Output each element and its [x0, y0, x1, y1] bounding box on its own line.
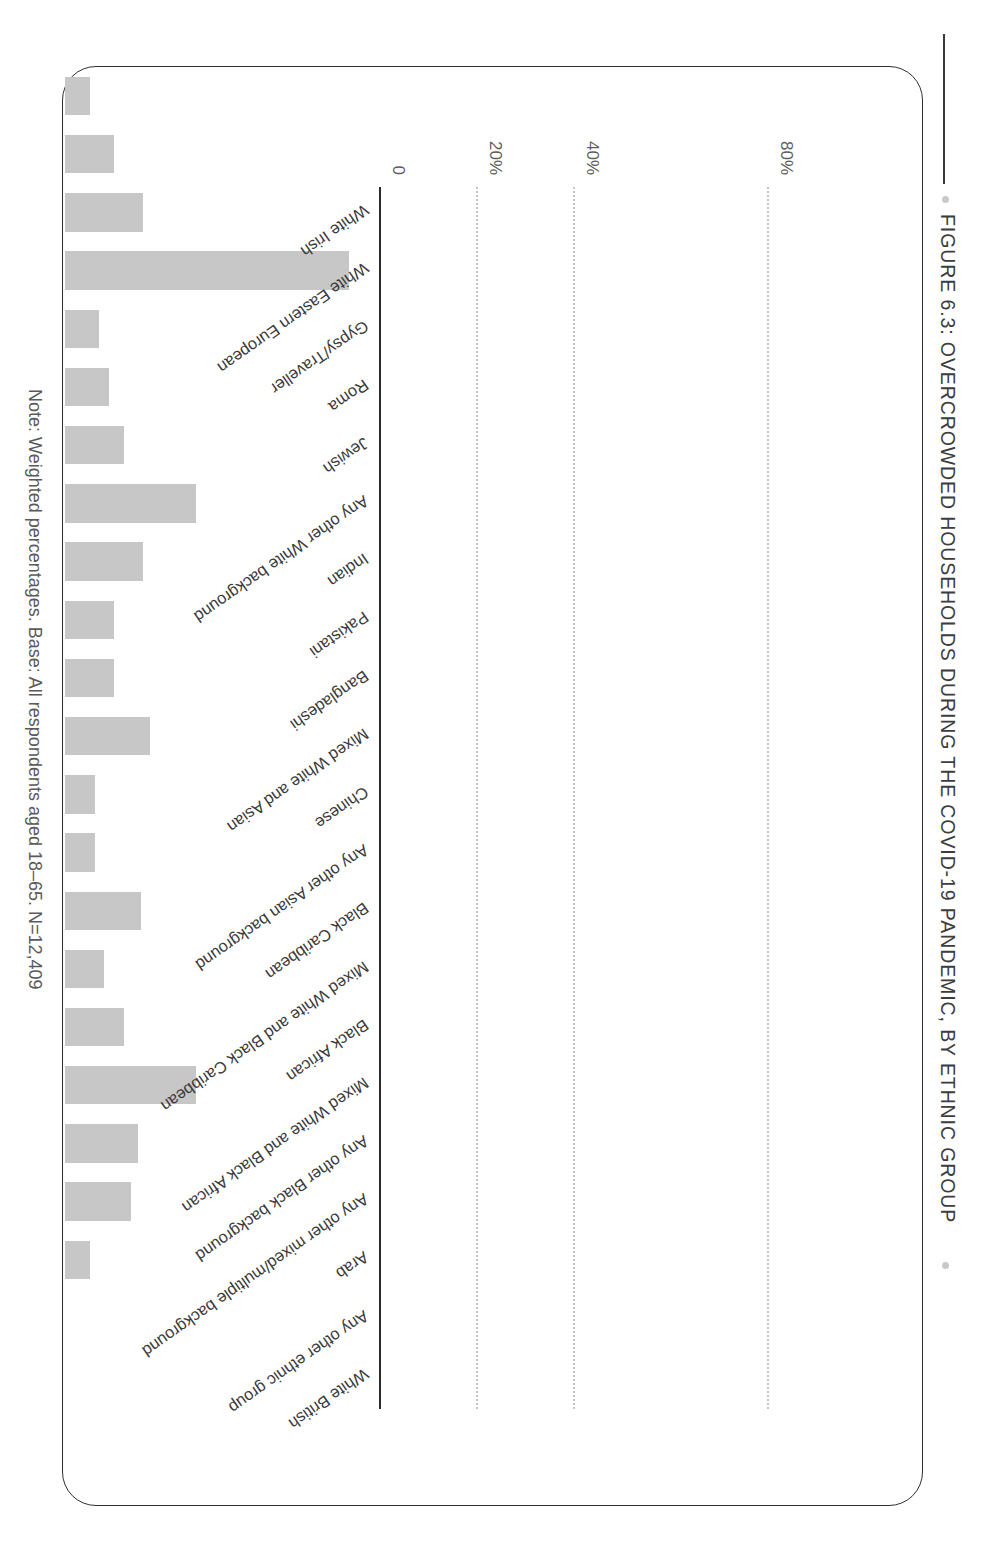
category-label-text: Jewish	[320, 433, 372, 477]
category-label: Any other ethnic group	[46, 1293, 376, 1351]
category-label-text: Indian	[324, 550, 372, 591]
category-label-text: Roma	[325, 375, 372, 416]
bar-slot[interactable]	[65, 67, 500, 125]
category-label: Any other Asian background	[46, 827, 376, 885]
figure-title: FIGURE 6.3: OVERCROWDED HOUSEHOLDS DURIN…	[936, 214, 959, 1223]
category-label: Mixed White and Black African	[46, 1060, 376, 1118]
category-label: Gypsy/Traveller	[46, 303, 376, 361]
figure-stage: FIGURE 6.3: OVERCROWDED HOUSEHOLDS DURIN…	[0, 0, 991, 1561]
category-label: White British	[46, 1351, 376, 1409]
chart-panel: 020%40%80% White IrishWhite Eastern Euro…	[62, 66, 923, 1506]
value-axis-tick-label: 80%	[776, 117, 796, 175]
figure-page: FIGURE 6.3: OVERCROWDED HOUSEHOLDS DURIN…	[0, 0, 991, 1561]
header-rule	[943, 34, 945, 184]
header-dot-left-icon	[942, 196, 949, 203]
bar[interactable]	[65, 135, 114, 173]
category-label: Any other Black background	[46, 1118, 376, 1176]
category-label-text: White British	[285, 1364, 372, 1433]
category-label: Roma	[46, 362, 376, 420]
category-label-text: Chinese	[312, 782, 372, 832]
category-label: Indian	[46, 536, 376, 594]
category-label: Pakistani	[46, 594, 376, 652]
category-label: Jewish	[46, 420, 376, 478]
category-label: Any other White background	[46, 478, 376, 536]
category-label: Mixed White and Black Caribbean	[46, 943, 376, 1001]
category-label: Any other mixed/multiple background	[46, 1176, 376, 1234]
category-label: Arab	[46, 1234, 376, 1292]
category-label: Chinese	[46, 769, 376, 827]
category-label-text: Arab	[333, 1248, 372, 1284]
category-label: White Irish	[46, 187, 376, 245]
bar[interactable]	[65, 77, 89, 115]
category-label: Mixed White and Asian	[46, 711, 376, 769]
header-dot-right-icon	[942, 1262, 949, 1269]
category-label: Black African	[46, 1002, 376, 1060]
gridline	[573, 187, 575, 1409]
category-label: Bangladeshi	[46, 653, 376, 711]
category-label: White Eastern European	[46, 245, 376, 303]
category-label: Black Caribbean	[46, 885, 376, 943]
gridline	[767, 187, 769, 1409]
category-axis-labels: White IrishWhite Eastern EuropeanGypsy/T…	[46, 187, 376, 1409]
bar-slot[interactable]	[65, 125, 500, 183]
figure-note: Note: Weighted percentages. Base: All re…	[24, 389, 45, 990]
value-axis-tick-label: 40%	[582, 117, 602, 175]
